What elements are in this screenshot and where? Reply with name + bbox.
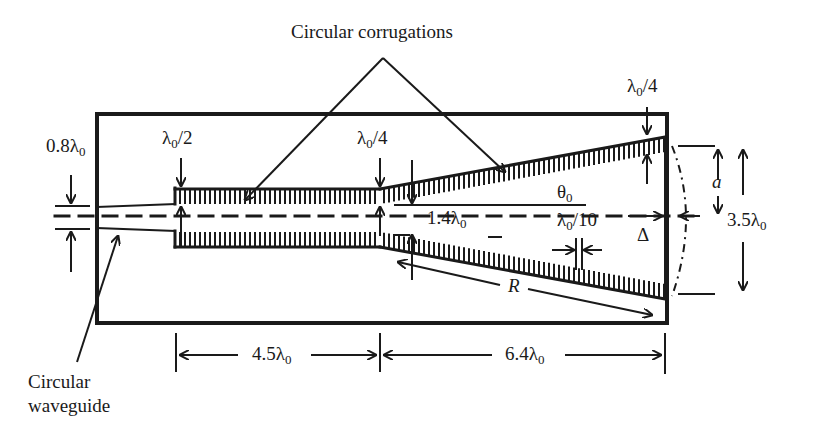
label-depth-quarter-aperture: λ0/4 — [627, 76, 658, 98]
label-circular-waveguide-line1: Circular — [28, 372, 90, 391]
phase-front-arc — [672, 146, 686, 296]
label-circular-corrugations: Circular corrugations — [291, 22, 453, 41]
label-aperture-radius: a — [712, 172, 722, 191]
label-phase-error: Δ — [637, 225, 649, 244]
label-slant-length: R — [508, 276, 520, 295]
corrugation-teeth-top-straight — [180, 189, 375, 204]
corrugated-horn-diagram: Circular corrugations Circular waveguide… — [0, 0, 813, 440]
label-section1-length: 4.5λ0 — [252, 344, 291, 366]
label-depth-half-wavelength: λ0/2 — [162, 128, 193, 150]
label-flare-angle: θ0 — [557, 182, 573, 204]
label-aperture-diameter: 3.5λ0 — [727, 210, 766, 232]
label-corrugation-pitch: λ0/10 — [557, 210, 597, 232]
label-section2-length: 6.4λ0 — [505, 344, 544, 366]
label-depth-quarter-mid: λ0/4 — [357, 128, 388, 150]
corrugation-teeth-bottom-straight — [180, 232, 375, 247]
diagram-drawing — [0, 0, 813, 440]
label-waveguide-diameter: 0.8λ0 — [46, 136, 85, 158]
corrugation-teeth-top-flare — [384, 137, 664, 203]
label-throat-diameter: 1.4λ0 — [427, 208, 466, 230]
corrugation-teeth-bottom-flare — [384, 233, 664, 299]
label-circular-waveguide-line2: waveguide — [28, 396, 110, 415]
